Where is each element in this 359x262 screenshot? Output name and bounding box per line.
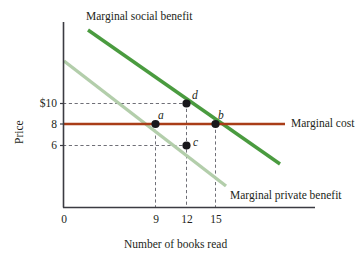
y-axis-title: Price — [14, 120, 26, 144]
y-tick-label-10: $10 — [27, 98, 57, 110]
axes-lines — [63, 22, 315, 208]
point-label-a: a — [158, 110, 164, 122]
point-label-d: d — [192, 90, 198, 102]
point-label-b: b — [218, 110, 224, 122]
marginal-cost-label: Marginal cost — [291, 118, 354, 130]
y-tick-label-8: 8 — [27, 119, 57, 131]
point-c — [182, 141, 190, 149]
y-tick-label-6: 6 — [27, 140, 57, 152]
marginal-private-benefit-label: Marginal private benefit — [230, 190, 342, 202]
x-axis-title: Number of books read — [124, 239, 227, 251]
x-tick-label-12: 12 — [176, 214, 198, 226]
x-tick-label-9: 9 — [146, 214, 166, 226]
point-label-c: c — [193, 137, 198, 149]
economics-externality-chart: $10 8 6 0 9 12 15 Price Number of books … — [0, 0, 359, 262]
marginal-social-benefit-label: Marginal social benefit — [86, 11, 192, 23]
x-tick-label-15: 15 — [205, 214, 227, 226]
point-d — [182, 99, 190, 107]
x-tick-label-0: 0 — [54, 214, 74, 226]
